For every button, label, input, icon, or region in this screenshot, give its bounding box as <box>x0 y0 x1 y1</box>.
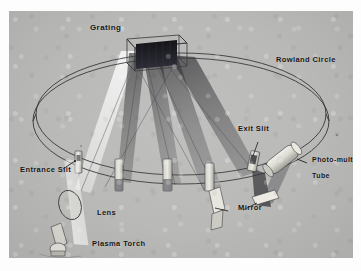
entrance-slit-aperture <box>77 155 81 161</box>
exit-slit-2[interactable] <box>163 159 172 191</box>
photographic-plate: Grating Rowland Circle Exit Slit Photo-m… <box>9 11 353 258</box>
exit-slit-3[interactable] <box>205 163 214 191</box>
exit-slit-2-base <box>163 179 172 191</box>
label-photomultiplier-line1: Photo-multiplier <box>312 156 353 163</box>
torch-base <box>51 251 65 256</box>
label-rowland-circle: Rowland Circle <box>276 55 336 64</box>
scan-specks <box>80 134 338 147</box>
spectrometer-diagram <box>9 11 353 258</box>
exit-slit-1-base <box>115 179 123 191</box>
label-photomultiplier-tube: Photo-multiplier Tube <box>298 148 353 188</box>
mirror-mount <box>211 210 223 230</box>
label-lens: Lens <box>97 208 116 217</box>
exit-slit-3-body <box>205 163 214 191</box>
label-exit-slit: Exit Slit <box>238 124 269 133</box>
exit-slit-1[interactable] <box>115 159 123 191</box>
figure-page: Grating Rowland Circle Exit Slit Photo-m… <box>0 0 361 271</box>
label-plasma-torch: Plasma Torch <box>92 239 145 248</box>
label-mirror: Mirror <box>238 203 262 212</box>
label-grating: Grating <box>90 23 121 32</box>
leader-entrance-dot <box>74 160 76 162</box>
label-entrance-slit: Entrance Slit <box>20 165 71 174</box>
label-photomultiplier-line2: Tube <box>312 172 330 179</box>
